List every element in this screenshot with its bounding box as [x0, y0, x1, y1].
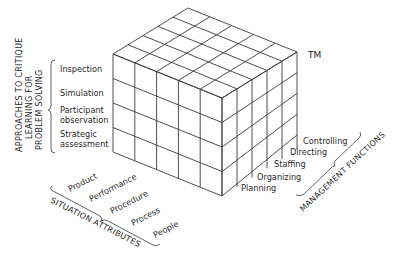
management-label-staffing: Staffing [274, 159, 306, 169]
approach-label-observation: observation [60, 115, 108, 125]
management-label-controlling: Controlling [303, 136, 348, 146]
right-face-horizontal-line [222, 52, 297, 98]
cube-grid [113, 8, 297, 196]
top-face-line [178, 34, 253, 80]
situation-label-process: Process [129, 205, 161, 228]
approaches-labels: Inspection Simulation Participant observ… [60, 64, 109, 149]
left-face-horizontal-line [113, 128, 222, 172]
top-face-line [113, 8, 188, 54]
right-face-horizontal-line [222, 73, 297, 123]
top-face-line [200, 43, 275, 89]
critique-learning-cube-diagram: TM Inspection Simulation Participant obs… [0, 0, 402, 273]
management-label-directing: Directing [290, 147, 327, 157]
top-face-line [135, 17, 210, 63]
approach-label-simulation: Simulation [60, 88, 104, 98]
left-face-horizontal-line [113, 103, 222, 147]
approaches-brace [48, 60, 55, 153]
trademark-label: TM [307, 50, 321, 60]
management-label-organizing: Organizing [257, 172, 301, 182]
management-label-planning: Planning [241, 183, 276, 193]
approach-label-inspection: Inspection [60, 64, 102, 74]
approach-label-assessment: assessment [60, 139, 109, 149]
approaches-title-line3: PROBLEM SOLVING [35, 69, 44, 150]
approaches-title-line1: APPROACHES TO CRITIQUE [15, 37, 24, 152]
approach-label-strategic: Strategic [60, 129, 97, 139]
approach-label-participant: Participant [60, 105, 105, 115]
left-face-horizontal-line [113, 79, 222, 123]
situation-label-people: People [151, 219, 180, 240]
approaches-axis-title: APPROACHES TO CRITIQUE LEARNING FOR PROB… [15, 37, 44, 152]
approaches-title-line2: LEARNING FOR [25, 75, 34, 139]
right-face-horizontal-line [222, 94, 297, 148]
top-face-line [157, 26, 232, 72]
